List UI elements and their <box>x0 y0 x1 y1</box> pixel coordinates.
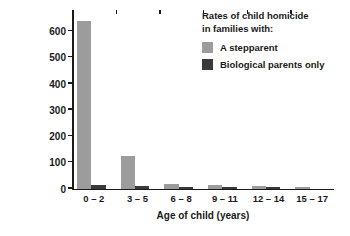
y-tick-label-100: 100 <box>49 157 66 168</box>
bar <box>121 156 135 189</box>
x-tick-label: 15 – 17 <box>296 193 328 204</box>
y-tick-label-200: 200 <box>49 131 66 142</box>
legend-swatch-biological <box>202 59 213 70</box>
bar <box>77 21 91 189</box>
legend-swatch-stepparent <box>202 42 213 53</box>
y-tick-0 <box>68 187 72 188</box>
legend-item-biological: Biological parents only <box>202 59 348 70</box>
x-tick-label: 3 – 5 <box>127 193 148 204</box>
bar-group <box>74 10 118 189</box>
x-tick-label: 0 – 2 <box>83 193 104 204</box>
y-tick-300 <box>68 108 72 109</box>
x-axis-tick-labels: 0 – 23 – 56 – 89 – 1112 – 1415 – 17 <box>72 193 334 209</box>
y-tick-label-0: 0 <box>60 183 66 194</box>
y-axis-title: Rate of homicide (victims per million ch… <box>0 0 50 200</box>
bar <box>252 186 266 189</box>
bar <box>91 185 105 188</box>
bar-group <box>161 10 205 189</box>
y-tick-label-600: 600 <box>49 26 66 37</box>
y-tick-label-500: 500 <box>49 52 66 63</box>
y-tick-600 <box>68 30 72 31</box>
x-tick-label: 12 – 14 <box>253 193 285 204</box>
bar <box>179 187 193 188</box>
bar <box>208 185 222 189</box>
bar-group <box>117 10 161 189</box>
legend-title: Rates of child homicide in families with… <box>202 10 348 35</box>
y-axis-title-line-3: of "parent"-child co-residence) <box>0 0 34 200</box>
bar <box>222 187 236 188</box>
y-tick-label-300: 300 <box>49 104 66 115</box>
y-tick-label-400: 400 <box>49 78 66 89</box>
y-tick-400 <box>68 82 72 83</box>
y-tick-100 <box>68 161 72 162</box>
x-axis-line <box>72 189 334 191</box>
x-tick-label: 9 – 11 <box>212 193 238 204</box>
legend-label-biological: Biological parents only <box>220 59 325 70</box>
legend-label-stepparent: A stepparent <box>220 42 278 53</box>
chart-legend: Rates of child homicide in families with… <box>202 10 348 76</box>
bar <box>135 186 149 188</box>
legend-title-line-2: in families with: <box>202 23 348 36</box>
chart-figure: Rate of homicide (victims per million ch… <box>0 0 350 236</box>
x-axis-title: Age of child (years) <box>72 210 334 221</box>
bar <box>266 187 280 188</box>
bar <box>164 184 178 189</box>
legend-item-stepparent: A stepparent <box>202 42 348 53</box>
y-tick-500 <box>68 56 72 57</box>
y-tick-200 <box>68 135 72 136</box>
x-tick-label: 6 – 8 <box>171 193 192 204</box>
bar <box>295 187 309 189</box>
legend-title-line-1: Rates of child homicide <box>202 10 348 23</box>
